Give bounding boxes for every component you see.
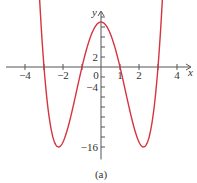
y-axis-label: y xyxy=(91,6,97,18)
y-tick-label: 2 xyxy=(93,51,99,63)
x-tick-label: 4 xyxy=(174,69,180,81)
x-tick-label: 2 xyxy=(136,69,142,81)
x-tick-label: 0 xyxy=(93,69,99,81)
x-tick-label: −4 xyxy=(19,69,31,81)
y-tick-label: −4 xyxy=(86,81,98,93)
figure-caption: (a) xyxy=(95,168,108,181)
axes xyxy=(6,11,191,160)
y-tick-label: −16 xyxy=(81,141,99,153)
function-plot: −4−201242−4−16 x y (a) xyxy=(0,0,197,183)
x-axis-label: x xyxy=(187,66,193,78)
x-tick-label: −2 xyxy=(57,69,69,81)
